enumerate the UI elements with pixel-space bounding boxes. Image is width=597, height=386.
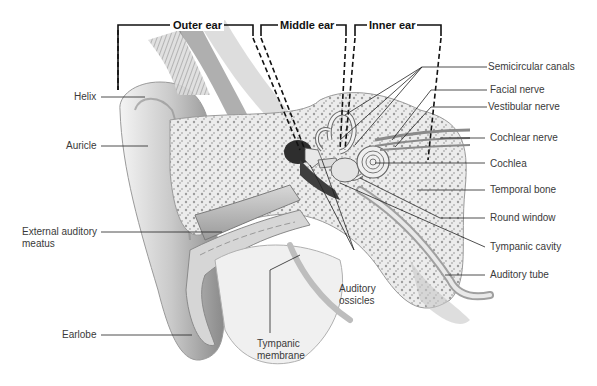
label-cochlear-nerve: Cochlear nerve [490,132,558,144]
label-round-window: Round window [490,212,556,224]
region-label-middle-ear: Middle ear [278,19,336,31]
label-helix: Helix [74,91,96,103]
region-label-inner-ear: Inner ear [367,19,417,31]
label-cochlea: Cochlea [490,158,527,170]
label-external-auditory-meatus: External auditory meatus [22,226,102,250]
ear-anatomy-diagram: Outer ear Middle ear Inner ear Helix Aur… [0,0,597,386]
label-tympanic-membrane: Tympanic membrane [257,338,317,362]
label-semicircular-canals: Semicircular canals [488,61,575,73]
cochlea-shape [357,146,389,178]
label-tympanic-cavity: Tympanic cavity [490,241,561,253]
label-vestibular-nerve: Vestibular nerve [488,101,560,113]
label-facial-nerve: Facial nerve [490,84,544,96]
region-label-outer-ear: Outer ear [171,19,224,31]
label-auditory-tube: Auditory tube [490,269,549,281]
vestibule-shape [331,158,359,182]
label-auricle: Auricle [66,140,97,152]
label-earlobe: Earlobe [62,329,96,341]
label-auditory-ossicles: Auditory ossicles [339,283,389,307]
label-temporal-bone: Temporal bone [490,184,556,196]
